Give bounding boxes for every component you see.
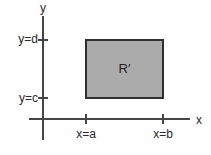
x-equals-b-label: x=b [149, 128, 177, 140]
x-tick-b [162, 114, 164, 124]
x-equals-a-label: x=a [72, 128, 100, 140]
x-axis-line [29, 118, 190, 120]
y-tick-d [38, 39, 48, 41]
shaded-region-rectangle: R′ [85, 39, 164, 99]
x-tick-a [85, 114, 87, 124]
y-tick-c [38, 97, 48, 99]
y-axis-label: y [36, 2, 50, 14]
y-equals-d-label: y=d [8, 33, 38, 45]
region-label: R′ [119, 63, 131, 75]
y-equals-c-label: y=c [8, 92, 38, 104]
coordinate-plane-figure: y x y=d y=c x=a x=b R′ [0, 0, 211, 155]
x-axis-label: x [196, 114, 210, 126]
y-axis-line [42, 16, 44, 140]
